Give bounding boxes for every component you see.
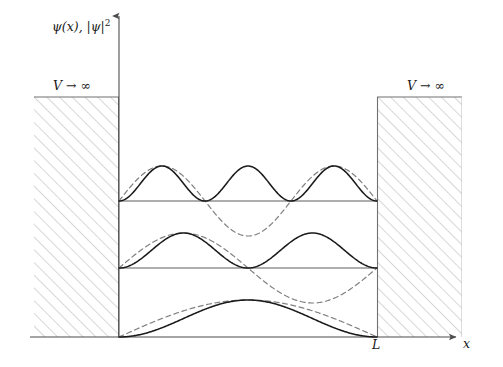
- well-width-label: L: [372, 337, 380, 352]
- y-axis-label: ψ(x), |ψ|2: [52, 18, 111, 34]
- right-barrier-label: V → ∞: [407, 78, 445, 93]
- curve-psi2_n1: [119, 300, 377, 337]
- wavefunction-curves: [119, 166, 377, 337]
- left-barrier-hatch-fill: [34, 97, 119, 337]
- y-axis-label-text: ψ(x), |ψ|2: [52, 19, 111, 34]
- right-barrier-label-text: V → ∞: [407, 78, 445, 93]
- physics-figure: ψ(x), |ψ|2 V → ∞ V → ∞ L x: [0, 0, 503, 367]
- right-barrier-hatch-fill: [377, 97, 462, 337]
- x-axis-label: x: [463, 336, 470, 351]
- left-barrier-label-text: V → ∞: [53, 78, 91, 93]
- left-barrier-region: [34, 97, 119, 337]
- right-barrier-region: [377, 97, 462, 337]
- curve-psi2_n3: [119, 166, 377, 201]
- left-barrier-label: V → ∞: [53, 78, 91, 93]
- figure-canvas: [0, 0, 503, 367]
- curve-psi_n1: [119, 300, 377, 337]
- curve-psi2_n2: [119, 233, 377, 268]
